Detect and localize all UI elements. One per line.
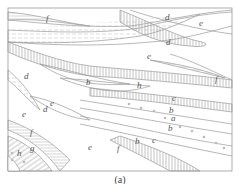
layer-label-b: b: [168, 123, 173, 133]
layer-label-e: e: [22, 109, 26, 119]
layer-label-a: a: [171, 113, 176, 123]
layer-label-d: d: [24, 71, 29, 81]
layer-label-e: e: [50, 98, 54, 108]
layer-label-d: d: [43, 104, 48, 114]
layer-label-b: b: [86, 77, 91, 87]
layer-label-d: d: [165, 12, 170, 22]
layer-label-c: c: [152, 135, 156, 145]
layer-label-e: e: [199, 18, 203, 28]
layer-label-d: d: [166, 37, 171, 47]
figure-caption: (a): [114, 174, 125, 184]
layer-label-c: c: [172, 93, 176, 103]
layer-label-e: e: [88, 142, 92, 152]
layer-label-e: e: [147, 51, 151, 61]
geologic-map-diagram: fdedefdbhcbabedefefbcgh (a): [0, 0, 239, 184]
layer-label-b: b: [135, 136, 140, 146]
layer-label-h: h: [137, 80, 142, 90]
layer-label-h: h: [17, 148, 22, 158]
layer-label-g: g: [30, 143, 35, 153]
